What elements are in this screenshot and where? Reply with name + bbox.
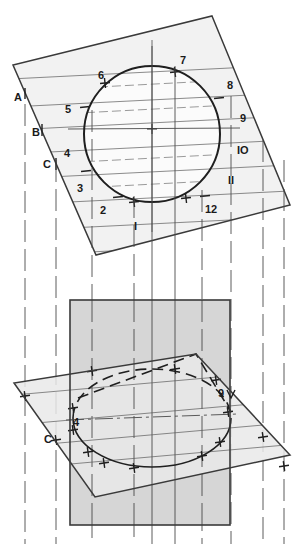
point-label-12: 12: [205, 203, 217, 215]
edge-label-A: A: [14, 91, 22, 103]
point-label-10: IO: [237, 144, 249, 156]
point-label-9: 9: [240, 112, 246, 124]
edge-label-C: C: [43, 158, 51, 170]
point-label-7: 7: [180, 54, 186, 66]
technical-drawing-canvas: I 2 3 4 5 6 7 8 9 IO II 12 A B: [0, 0, 304, 544]
point-label-2: 2: [100, 204, 106, 216]
point-label-8: 8: [227, 79, 233, 91]
edge-label-B: B: [32, 126, 40, 138]
point-label-1: I: [134, 220, 137, 232]
bottom-point-label-4: 4: [73, 416, 80, 428]
point-label-4: 4: [64, 147, 71, 159]
bottom-edge-label-C: C: [44, 433, 52, 445]
point-label-3: 3: [77, 182, 83, 194]
point-label-5: 5: [65, 103, 71, 115]
bottom-point-label-9: 9: [218, 387, 224, 399]
projection-drawing: I 2 3 4 5 6 7 8 9 IO II 12 A B: [0, 0, 304, 544]
point-label-6: 6: [98, 69, 104, 81]
